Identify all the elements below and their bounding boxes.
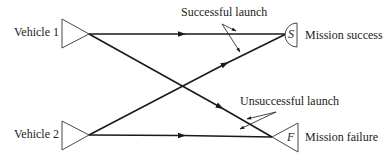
success-node-letter: S bbox=[288, 27, 294, 41]
vehicle-1-label: Vehicle 1 bbox=[14, 25, 59, 39]
unsuccessful-launch-label: Unsuccessful launch bbox=[240, 94, 339, 108]
successful-launch-label: Successful launch bbox=[181, 5, 267, 19]
vehicle-2-node bbox=[62, 121, 89, 150]
vehicle-1-node bbox=[62, 19, 89, 48]
failure-node-letter: F bbox=[287, 130, 294, 144]
mission-failure-label: Mission failure bbox=[305, 130, 378, 144]
edge-vehicle2-success bbox=[89, 34, 286, 135]
unsuccessful-pointer-arrow-1 bbox=[247, 112, 276, 119]
edge-vehicle2-failure bbox=[89, 135, 272, 137]
vehicle-2-label: Vehicle 2 bbox=[14, 127, 59, 141]
unsuccessful-pointer-arrow-2 bbox=[240, 112, 276, 129]
mission-success-label: Mission success bbox=[305, 28, 383, 42]
